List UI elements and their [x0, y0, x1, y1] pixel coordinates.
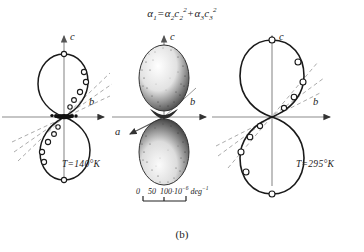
left-marker	[81, 69, 86, 74]
center-b-axis-label: b	[190, 96, 195, 107]
scale-multiplier-exponent: −6	[182, 185, 188, 191]
left-marker-top	[61, 51, 66, 56]
left-marker	[77, 89, 82, 94]
left-c-axis-label: c	[70, 31, 75, 42]
left-upper-lobe	[38, 54, 88, 117]
figure-canvas	[0, 0, 364, 252]
equation-alpha1: α1=α2c22+α3c32	[0, 6, 364, 22]
center-panel-group	[112, 36, 206, 201]
left-marker-bottom	[61, 177, 66, 182]
right-marker	[238, 149, 244, 155]
left-lower-lobe	[40, 117, 90, 180]
scale-multiplier: ·10	[172, 187, 182, 196]
right-marker-bottom	[269, 191, 275, 197]
scale-tick-100: 100	[160, 187, 172, 196]
right-c-axis-label: c	[279, 31, 284, 42]
right-marker	[243, 169, 249, 175]
left-marker	[45, 139, 50, 144]
right-marker-top	[269, 37, 275, 43]
right-panel-group	[212, 36, 330, 197]
figure-caption: (b)	[0, 228, 364, 240]
center-upper-lobe-solid	[139, 45, 189, 111]
figure-panel-b: α1=α2c22+α3c32	[0, 0, 364, 252]
equation-term1-var-sub: 2	[179, 14, 183, 22]
left-marker	[41, 159, 46, 164]
left-marker	[52, 132, 57, 137]
left-temperature-label: T=140°K	[62, 159, 100, 169]
center-lower-lobe-solid	[139, 119, 189, 185]
left-b-axis-label: b	[89, 96, 94, 107]
right-marker	[257, 123, 262, 128]
center-a-axis-label: a	[115, 126, 120, 137]
right-temperature-label: T=295°K	[296, 159, 334, 169]
equation-term2-var-sup: 2	[213, 6, 217, 14]
left-marker	[68, 105, 72, 109]
scale-tick-0: 0	[136, 187, 140, 196]
right-marker	[247, 134, 253, 140]
right-marker	[295, 59, 301, 65]
right-b-axis-label: b	[313, 96, 318, 107]
left-marker	[56, 125, 60, 129]
center-c-axis-label: c	[170, 31, 175, 42]
left-marker	[39, 149, 44, 154]
scale-tick-50: 50	[148, 187, 156, 196]
left-marker	[83, 79, 88, 84]
left-marker	[72, 98, 77, 103]
right-marker	[291, 94, 297, 100]
scale-unit-exponent: −1	[202, 185, 208, 191]
left-origin-cluster	[50, 114, 77, 119]
equation-equals: =	[157, 7, 165, 19]
scale-bar	[143, 196, 186, 201]
right-marker	[281, 105, 286, 110]
scale-bar-labels: 0 50 100·10−6 deg−1	[136, 185, 248, 196]
right-marker	[300, 79, 306, 85]
equation-term2-var-sub: 3	[209, 14, 213, 22]
scale-unit: deg	[190, 187, 202, 196]
